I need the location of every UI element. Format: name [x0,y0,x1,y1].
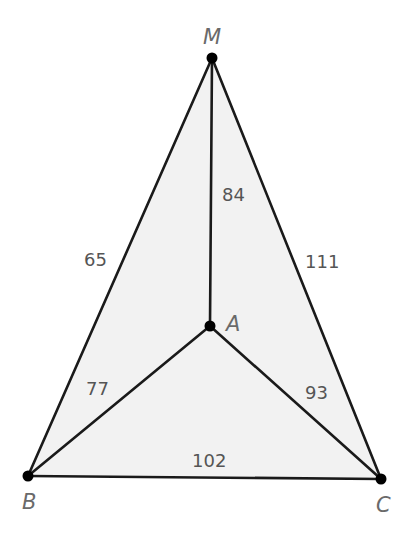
vertex-label-a: A [226,314,240,335]
vertex-a-dot [205,321,216,332]
edge-weight-a-c: 93 [305,384,328,402]
edge-weight-m-b: 65 [84,251,107,269]
vertex-label-m: M [203,27,221,48]
edge-weight-b-c: 102 [192,452,226,470]
vertex-b-dot [23,471,34,482]
edge-weight-m-c: 111 [305,253,339,271]
edge-weight-a-b: 77 [86,380,109,398]
vertex-m-dot [207,53,218,64]
vertex-c-dot [376,474,387,485]
vertex-label-b: B [22,492,36,513]
vertex-label-c: C [376,495,391,516]
edge-weight-m-a: 84 [222,186,245,204]
